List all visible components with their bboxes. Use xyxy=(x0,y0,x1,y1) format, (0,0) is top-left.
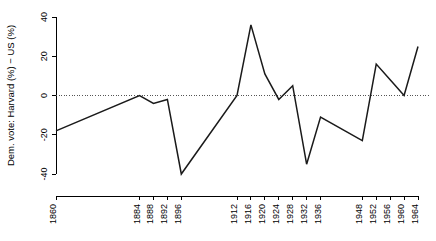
y-tick-label: 0 xyxy=(39,93,49,98)
x-axis xyxy=(56,196,418,200)
y-axis-title-text: Dem. vote: Harvard (%) − US (%) xyxy=(5,25,16,166)
x-tick-label: 1948 xyxy=(354,204,364,224)
data-series-line xyxy=(56,25,418,174)
x-tick-label: 1956 xyxy=(382,204,392,224)
x-tick-label: 1896 xyxy=(173,204,183,224)
x-tick-label: 1932 xyxy=(299,204,309,224)
x-tick-label: 1892 xyxy=(159,204,169,224)
series-polyline xyxy=(56,25,418,174)
x-tick-label: 1916 xyxy=(243,204,253,224)
y-tick-label: 20 xyxy=(39,51,49,61)
x-tick-label: 1928 xyxy=(285,204,295,224)
x-tick-label: 1888 xyxy=(145,204,155,224)
x-tick-label: 1936 xyxy=(313,204,323,224)
y-tick-label: -40 xyxy=(39,167,49,180)
y-tick-label: 40 xyxy=(39,12,49,22)
x-tick-label: 1920 xyxy=(257,204,267,224)
y-axis xyxy=(52,17,56,174)
y-tick-labels: -40-2002040 xyxy=(39,12,49,181)
x-tick-label: 1860 xyxy=(48,204,58,224)
y-tick-label: -20 xyxy=(39,128,49,141)
chart-container: -40-2002040 1860188418881892189619121916… xyxy=(0,0,436,241)
x-tick-label: 1960 xyxy=(396,204,406,224)
x-tick-label: 1952 xyxy=(368,204,378,224)
x-tick-label: 1964 xyxy=(410,204,420,224)
x-tick-label: 1924 xyxy=(271,204,281,224)
x-tick-labels: 1860188418881892189619121916192019241928… xyxy=(48,204,420,224)
y-axis-title: Dem. vote: Harvard (%) − US (%) xyxy=(5,25,16,166)
x-tick-label: 1912 xyxy=(229,204,239,224)
line-chart: -40-2002040 1860188418881892189619121916… xyxy=(0,0,436,241)
x-tick-label: 1884 xyxy=(132,204,142,224)
